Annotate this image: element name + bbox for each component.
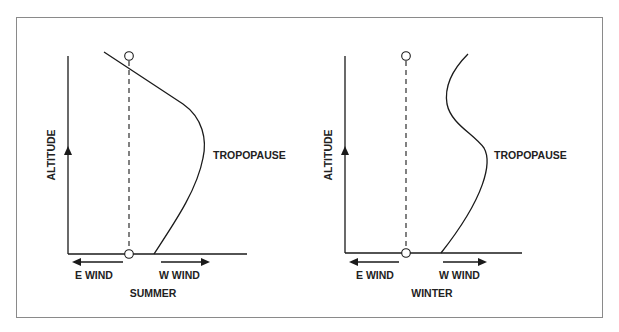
winter-w-wind-label: W WIND — [439, 269, 480, 281]
winter-bottom-circle-icon — [402, 249, 411, 258]
summer-caption: SUMMER — [130, 287, 177, 299]
winter-altitude-label: ALTITUDE — [322, 129, 334, 180]
winter-wind-profile-curve — [441, 54, 487, 253]
summer-panel: ALTITUDE TROPOPAUSE E WIND W WIND SUMMER — [45, 52, 286, 299]
winter-panel: ALTITUDE TROPOPAUSE E WIND W WIND WINTER — [322, 52, 567, 299]
winter-e-wind-arrowhead-icon — [349, 258, 358, 266]
summer-wind-profile-curve — [104, 52, 204, 254]
summer-tropopause-label: TROPOPAUSE — [213, 149, 286, 161]
winter-altitude-arrowhead-icon — [341, 146, 349, 155]
wind-profile-diagram: ALTITUDE TROPOPAUSE E WIND W WIND SUMMER… — [0, 0, 619, 332]
summer-w-wind-arrowhead-icon — [201, 258, 210, 266]
summer-top-circle-icon — [125, 52, 134, 61]
winter-tropopause-label: TROPOPAUSE — [494, 149, 567, 161]
summer-bottom-circle-icon — [125, 250, 134, 259]
winter-caption: WINTER — [411, 287, 453, 299]
summer-e-wind-label: E WIND — [75, 269, 113, 281]
summer-e-wind-arrowhead-icon — [72, 258, 81, 266]
summer-altitude-arrowhead-icon — [64, 146, 72, 155]
summer-w-wind-label: W WIND — [159, 269, 200, 281]
winter-top-circle-icon — [402, 52, 411, 61]
summer-altitude-label: ALTITUDE — [45, 129, 57, 180]
winter-e-wind-label: E WIND — [356, 269, 394, 281]
winter-w-wind-arrowhead-icon — [478, 258, 487, 266]
